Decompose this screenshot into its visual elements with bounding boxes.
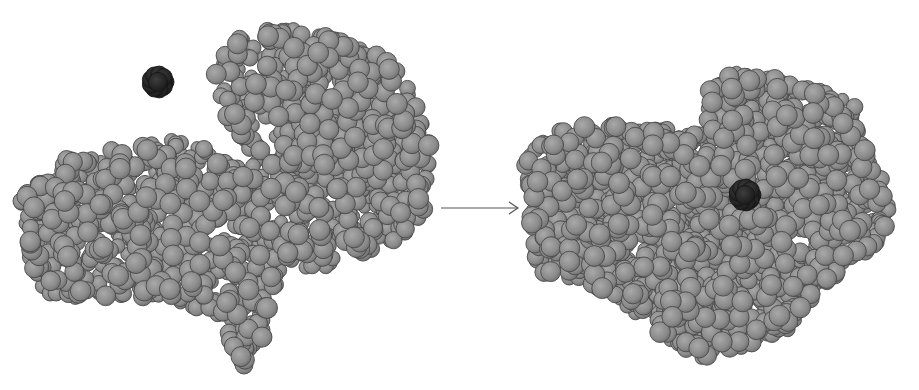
atom-sphere — [815, 246, 835, 266]
atom-sphere — [136, 187, 157, 208]
atom-sphere — [788, 168, 808, 188]
atom-sphere — [767, 78, 788, 99]
atom-sphere — [804, 83, 825, 104]
atom-sphere — [689, 156, 710, 177]
atom-sphere — [764, 145, 785, 166]
atom-sphere — [269, 106, 289, 126]
atom-sphere — [721, 78, 742, 99]
atom-sphere — [722, 110, 743, 131]
atom-sphere — [817, 269, 837, 289]
atom-sphere — [54, 191, 75, 212]
atom-sphere — [285, 182, 306, 203]
atom-sphere — [257, 56, 277, 76]
atom-sphere — [747, 320, 767, 340]
atom-sphere — [225, 104, 246, 125]
atom-sphere — [90, 194, 110, 214]
induced-fit-figure — [0, 0, 919, 390]
atom-sphere — [833, 245, 854, 266]
atom-sphere — [110, 158, 131, 179]
atom-sphere — [176, 158, 197, 179]
atom-sphere — [584, 246, 605, 267]
atom-sphere — [308, 42, 329, 63]
atom-sphere — [826, 170, 847, 191]
atom-sphere — [227, 34, 247, 54]
atom-sphere — [309, 220, 330, 241]
atom-sphere — [288, 224, 309, 245]
atom-sphere — [719, 215, 740, 236]
atom-sphere — [783, 276, 803, 296]
atom-sphere — [217, 292, 237, 312]
reaction-arrow-icon — [441, 202, 518, 214]
atom-sphere — [209, 235, 230, 256]
atom-sphere — [408, 189, 429, 210]
atom-sphere — [620, 148, 641, 169]
atom-sphere — [732, 291, 753, 312]
atom-sphere — [771, 231, 792, 252]
atom-sphere — [776, 105, 797, 126]
atom-sphere — [258, 26, 279, 47]
atom-sphere — [345, 127, 366, 148]
atom-sphere — [713, 275, 734, 296]
atom-sphere — [344, 227, 365, 248]
atom-sphere — [261, 267, 281, 287]
atom-sphere — [276, 80, 296, 100]
atom-sphere — [78, 222, 98, 242]
atom-sphere — [574, 117, 595, 138]
atom-sphere — [314, 154, 335, 175]
enzyme-substrate-complex — [517, 66, 896, 365]
atom-sphere — [231, 347, 251, 367]
atom-sphere — [93, 237, 113, 257]
atom-sphere — [20, 231, 41, 252]
atom-sphere — [201, 172, 219, 190]
atom-sphere — [233, 166, 253, 186]
atom-sphere — [854, 140, 875, 161]
atom-sphere — [803, 103, 824, 124]
atom-sphere — [163, 245, 184, 266]
atom-sphere — [721, 235, 742, 256]
atom-sphere — [589, 224, 610, 245]
atom-sphere — [769, 305, 790, 326]
atom-sphere — [348, 72, 369, 93]
atom-sphere — [522, 213, 543, 234]
atom-sphere — [261, 178, 282, 199]
atom-sphere — [775, 254, 795, 274]
atom-sphere — [735, 159, 756, 180]
atom-sphere — [752, 207, 773, 228]
atom-sphere — [609, 173, 630, 194]
atom-sphere — [278, 243, 298, 263]
atom-sphere — [418, 135, 439, 156]
atom-sphere — [541, 237, 561, 257]
atom-sphere — [711, 155, 732, 176]
atom-sphere — [702, 92, 723, 113]
atom-sphere — [833, 113, 853, 133]
atom-sphere — [565, 150, 585, 170]
atom-sphere — [181, 272, 202, 293]
atom-sphere — [58, 246, 79, 267]
atom-sphere — [566, 215, 587, 236]
atom-sphere — [790, 297, 811, 318]
atom-sphere — [875, 216, 895, 236]
atom-sphere — [608, 214, 629, 235]
atom-sphere — [319, 120, 339, 140]
atom-sphere — [108, 266, 129, 287]
atom-sphere — [386, 93, 407, 114]
atom-sphere — [662, 306, 683, 327]
atom-sphere — [804, 128, 825, 149]
atom-sphere — [252, 327, 272, 347]
atom-sphere — [712, 332, 732, 352]
atom-sphere — [257, 298, 278, 319]
atom-sphere — [592, 278, 613, 299]
atom-sphere — [300, 113, 320, 133]
atom-sphere — [70, 281, 91, 302]
atom-sphere — [250, 245, 270, 265]
atom-sphere — [660, 166, 681, 187]
atom-sphere — [527, 171, 548, 192]
atom-sphere — [207, 153, 228, 174]
atom-sphere — [606, 117, 626, 137]
atom-sphere — [591, 152, 612, 173]
atom-sphere — [735, 185, 754, 204]
atom-sphere — [261, 221, 280, 240]
atom-sphere — [159, 279, 180, 300]
atom-sphere — [206, 64, 226, 84]
atom-sphere — [238, 279, 259, 300]
